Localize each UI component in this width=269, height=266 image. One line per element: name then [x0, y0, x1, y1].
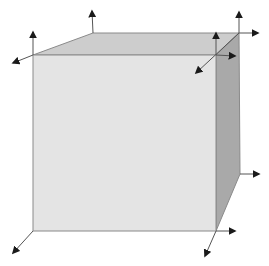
front-face [33, 55, 216, 231]
arrow-front-top-left-diagonal-icon [13, 55, 33, 63]
right-face [216, 33, 240, 231]
cube-faces [33, 33, 240, 231]
arrow-back-top-left-up-icon [92, 11, 93, 33]
arrow-front-bottom-right-diagonal-icon [205, 231, 216, 256]
arrow-front-bottom-left-diagonal-icon [13, 231, 33, 253]
top-face [33, 33, 239, 55]
cube-diagram [0, 0, 269, 266]
